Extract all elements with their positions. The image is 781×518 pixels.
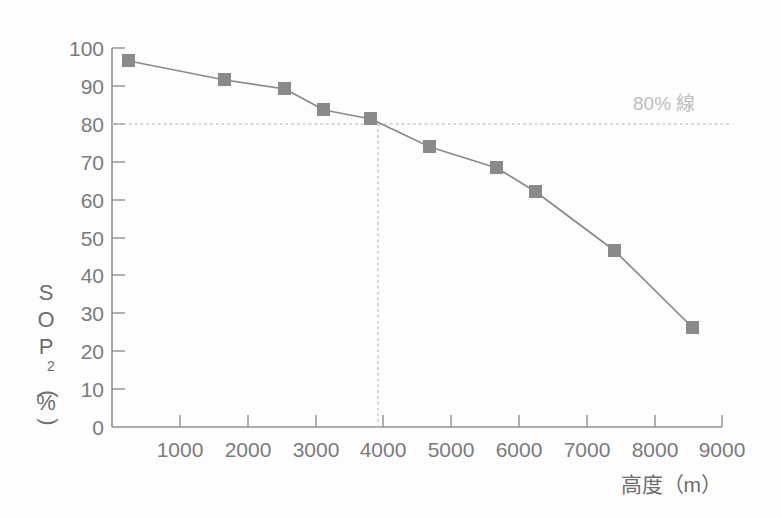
y-axis-title-char-o: O — [37, 307, 54, 332]
x-axis-title: 高度（m） — [621, 473, 723, 496]
eighty-percent-line-annotation: 80% 線 — [633, 93, 695, 114]
data-point-marker — [608, 244, 621, 257]
x-tick-label-6000: 6000 — [496, 438, 543, 461]
data-point-marker — [317, 103, 330, 116]
y-tick-label-80: 80 — [81, 113, 104, 136]
y-axis-title-char-s: S — [39, 280, 54, 305]
y-tick-label-90: 90 — [81, 75, 104, 98]
x-tick-label-8000: 8000 — [632, 438, 679, 461]
x-tick-label-3000: 3000 — [293, 438, 340, 461]
x-tick-label-2000: 2000 — [225, 438, 272, 461]
chart-container: 100 90 80 70 60 50 40 30 20 10 0 1000 — [0, 0, 781, 518]
y-axis-title-paren-close: ) — [37, 418, 62, 425]
data-point-marker — [364, 112, 377, 125]
y-axis-title-subscript-2: 2 — [47, 358, 55, 374]
y-tick-label-50: 50 — [81, 227, 104, 250]
y-tick-label-40: 40 — [81, 264, 104, 287]
y-tick-label-20: 20 — [81, 340, 104, 363]
y-tick-label-100: 100 — [69, 37, 104, 60]
x-tick-label-1000: 1000 — [157, 438, 204, 461]
data-point-marker — [490, 161, 503, 174]
x-tick-label-4000: 4000 — [360, 438, 407, 461]
data-point-marker — [423, 140, 436, 153]
data-point-marker — [122, 54, 135, 67]
data-point-marker — [686, 321, 699, 334]
y-axis-title-char-p: P — [39, 334, 54, 359]
x-tick-label-5000: 5000 — [428, 438, 475, 461]
y-tick-label-30: 30 — [81, 302, 104, 325]
y-tick-label-70: 70 — [81, 151, 104, 174]
x-axis-tick-labels: 1000 2000 3000 4000 5000 6000 7000 8000 … — [157, 438, 746, 461]
data-point-marker — [278, 82, 291, 95]
y-tick-label-0: 0 — [92, 416, 104, 439]
data-point-marker — [218, 73, 231, 86]
x-tick-label-9000: 9000 — [699, 438, 746, 461]
y-tick-label-10: 10 — [81, 378, 104, 401]
y-tick-label-60: 60 — [81, 189, 104, 212]
spo2-altitude-line-chart: 100 90 80 70 60 50 40 30 20 10 0 1000 — [0, 0, 781, 518]
y-axis-title-unit-percent: % — [36, 390, 56, 415]
data-point-marker — [529, 185, 542, 198]
x-tick-label-7000: 7000 — [564, 438, 611, 461]
